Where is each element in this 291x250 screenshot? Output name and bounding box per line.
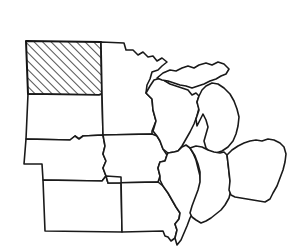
state-north-dakota[interactable] (26, 41, 102, 95)
midwest-states-map (0, 0, 291, 250)
state-ohio[interactable] (227, 139, 286, 202)
state-michigan-lower[interactable] (196, 83, 239, 153)
map-container (0, 0, 291, 250)
state-nebraska[interactable] (24, 135, 106, 181)
state-south-dakota[interactable] (26, 94, 103, 140)
state-kansas[interactable] (43, 176, 122, 232)
states-layer (24, 41, 286, 245)
